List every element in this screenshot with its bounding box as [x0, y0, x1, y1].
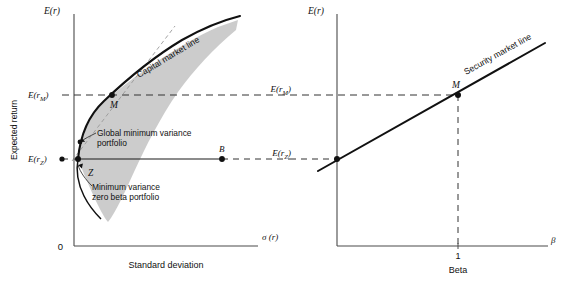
left-y-axis-title: Expected return — [9, 100, 19, 160]
svg-text:E(rZ): E(rZ) — [27, 154, 47, 166]
left-tick-erz-close: ) — [43, 154, 47, 164]
point-erz-right[interactable] — [334, 156, 340, 162]
gmv-annotation-line2: portfolio — [97, 138, 127, 148]
left-tick-erz-main: E(r — [27, 154, 40, 164]
figure-container: E(r) σ (r) 0 Expected return Standard de… — [0, 0, 564, 305]
cml-sml-figure: E(r) σ (r) 0 Expected return Standard de… — [0, 0, 564, 305]
right-x-axis-symbol: β — [550, 235, 556, 245]
right-tick-erz-close: ) — [287, 148, 291, 158]
left-origin-label: 0 — [58, 241, 63, 252]
right-tick-erm-close: ) — [287, 84, 291, 94]
zero-beta-annotation-line2: zero beta portfolio — [92, 192, 159, 202]
svg-text:E(rM): E(rM) — [270, 84, 292, 96]
left-x-axis-title: Standard deviation — [128, 260, 203, 270]
left-x-axis-symbol: σ (r) — [262, 232, 278, 242]
label-point-z: Z — [88, 168, 94, 178]
left-tick-erm-main: E(r — [27, 90, 40, 100]
left-tick-erz: E(rZ) — [27, 154, 47, 166]
right-tick-erz: E(rZ) — [271, 148, 291, 160]
point-erz-axis — [59, 156, 64, 161]
right-x-axis-title: Beta — [449, 265, 468, 275]
label-point-m-right: M — [451, 80, 461, 90]
left-tick-erm-close: ) — [45, 90, 49, 100]
point-m-left[interactable] — [109, 92, 115, 98]
right-y-axis-symbol: E(r) — [307, 6, 324, 17]
point-b[interactable] — [219, 156, 225, 162]
point-m-right[interactable] — [455, 92, 461, 98]
left-y-axis-symbol: E(r) — [43, 6, 60, 17]
zero-beta-annotation-line1: Minimum variance — [92, 182, 160, 192]
label-point-b: B — [219, 144, 225, 154]
label-point-m-left: M — [109, 100, 119, 110]
right-tick-erm: E(rM) — [270, 84, 292, 96]
svg-text:E(rZ): E(rZ) — [271, 148, 291, 160]
right-tick-erz-main: E(r — [271, 148, 284, 158]
right-tick-erm-main: E(r — [270, 84, 283, 94]
svg-text:E(rM): E(rM) — [27, 90, 49, 102]
gmv-annotation-line1: Global minimum variance — [97, 128, 192, 138]
beta-one-tick-label: 1 — [455, 251, 460, 261]
point-z[interactable] — [75, 156, 81, 162]
left-tick-erm: E(rM) — [27, 90, 49, 102]
point-global-min-variance[interactable] — [78, 140, 83, 145]
